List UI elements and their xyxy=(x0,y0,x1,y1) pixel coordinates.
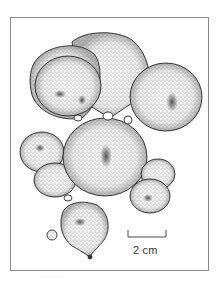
caption-fragment: · · · · · · xyxy=(40,273,64,280)
lobes xyxy=(20,33,202,259)
scale-bar-label: 2 cm xyxy=(133,244,158,256)
specimen-illustration xyxy=(0,0,221,282)
scale-bar xyxy=(128,230,166,237)
